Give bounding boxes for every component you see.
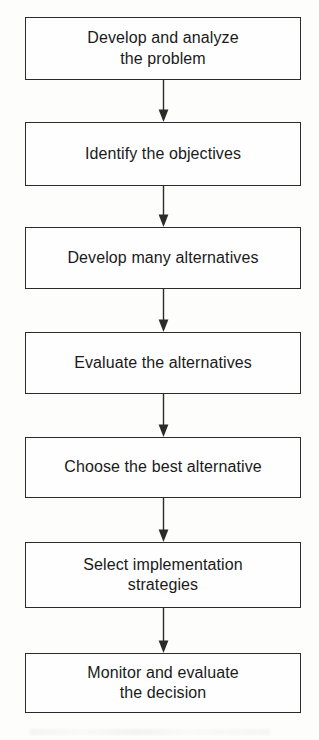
flowchart-node-label: Evaluate the alternatives: [68, 353, 258, 373]
flowchart-node-label: Identify the objectives: [79, 144, 247, 164]
flowchart-node-label: Develop many alternatives: [61, 248, 264, 268]
flowchart-node-label: Select implementation strategies: [77, 555, 249, 596]
flowchart-connector-arrow-1: [155, 80, 172, 122]
flowchart-node-step-4: Evaluate the alternatives: [25, 332, 301, 394]
scan-artifact: [30, 729, 270, 735]
flowchart-node-step-5: Choose the best alternative: [25, 437, 301, 498]
flowchart-node-label: Monitor and evaluate the decision: [81, 663, 244, 704]
flowchart-connector-arrow-6: [155, 608, 172, 653]
flowchart-connector-arrow-5: [155, 498, 172, 542]
flowchart-node-step-2: Identify the objectives: [25, 122, 301, 186]
flowchart-node-step-7: Monitor and evaluate the decision: [25, 653, 301, 713]
flowchart-diagram: Develop and analyze the problem Identify…: [0, 0, 319, 740]
flowchart-node-step-3: Develop many alternatives: [25, 227, 301, 289]
flowchart-node-step-1: Develop and analyze the problem: [25, 17, 301, 80]
flowchart-connector-arrow-2: [155, 186, 172, 227]
flowchart-connector-arrow-3: [155, 289, 172, 332]
flowchart-node-label: Choose the best alternative: [58, 457, 268, 477]
flowchart-node-label: Develop and analyze the problem: [81, 28, 244, 69]
flowchart-node-step-6: Select implementation strategies: [25, 542, 301, 608]
flowchart-connector-arrow-4: [155, 394, 172, 437]
